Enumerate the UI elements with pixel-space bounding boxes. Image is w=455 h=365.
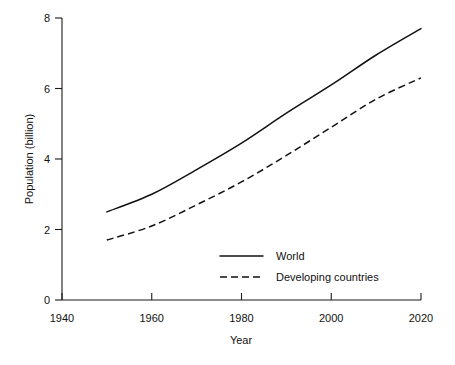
y-tick-label-0: 0 — [44, 294, 50, 306]
y-tick-label-2: 2 — [44, 224, 50, 236]
chart-canvas: 8 6 4 2 0 1940 1960 1980 2000 2020 Year … — [0, 0, 455, 365]
x-tick-label-1960: 1960 — [140, 312, 164, 324]
y-tick-label-8: 8 — [44, 12, 50, 24]
x-tick-label-1940: 1940 — [50, 312, 74, 324]
y-axis-title: Population (billion) — [23, 114, 35, 205]
chart-legend: World Developing countries — [220, 250, 379, 283]
population-line-chart: 8 6 4 2 0 1940 1960 1980 2000 2020 Year … — [0, 0, 455, 365]
legend-label-developing-countries: Developing countries — [276, 271, 379, 283]
x-tick-label-2020: 2020 — [409, 312, 433, 324]
x-tick-label-1980: 1980 — [229, 312, 253, 324]
x-tick-label-2000: 2000 — [319, 312, 343, 324]
legend-label-world: World — [276, 250, 305, 262]
series-line-world — [107, 29, 421, 212]
y-tick-label-6: 6 — [44, 83, 50, 95]
x-axis-title: Year — [230, 334, 253, 346]
series-line-developing-countries — [107, 78, 421, 240]
y-tick-label-4: 4 — [44, 153, 50, 165]
